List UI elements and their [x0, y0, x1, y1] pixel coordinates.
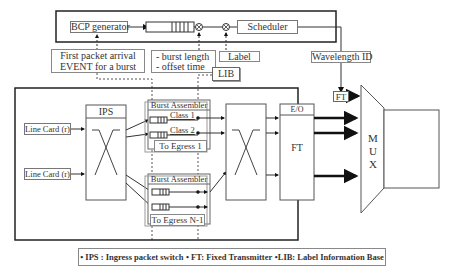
legend-lib: •LIB: Label Information Base	[275, 252, 384, 262]
class-2-label: Class 2	[170, 126, 195, 135]
mux-letter-m: M	[366, 132, 380, 144]
to-egress-1-label: To Egress 1	[155, 140, 206, 152]
class-1-label: Class 1	[170, 111, 195, 120]
scheduler-label: Scheduler	[238, 21, 297, 33]
first-packet-line2: EVENT for a burst	[52, 61, 144, 73]
lib-box: LIB	[212, 67, 240, 81]
label-text: Label	[220, 51, 259, 63]
eo-label: E/O	[280, 104, 314, 115]
lib-label: LIB	[213, 68, 239, 80]
ft-label: FT	[280, 142, 314, 154]
burst-info-box: - burst length - offset time	[151, 50, 216, 73]
diagram-wires	[0, 0, 452, 276]
line-card-2-label: Line Card (r)	[25, 168, 70, 180]
label-box: Label	[219, 51, 260, 62]
mux-letter-u: U	[366, 145, 380, 157]
first-packet-event-box: First packet arrival EVENT for a burst	[51, 49, 145, 73]
line-card-1-label: Line Card (r)	[25, 123, 70, 135]
line-card-2: Line Card (r)	[24, 168, 71, 180]
ft-small-box: FT	[333, 91, 349, 102]
legend: • IPS : Ingress packet switch • FT: Fixe…	[78, 248, 386, 266]
line-card-1: Line Card (r)	[24, 123, 71, 135]
combiner-icon-2	[223, 24, 230, 31]
wavelength-id-box: Wavelength ID	[311, 51, 371, 63]
legend-ips: • IPS : Ingress packet switch	[80, 252, 183, 262]
to-egress-n-box: To Egress N-1	[150, 214, 205, 226]
to-egress-1-box: To Egress 1	[154, 140, 207, 152]
combiner-icon-1	[196, 24, 203, 31]
ft-small-label: FT	[334, 91, 348, 103]
bcp-generator-box: BCP generator	[70, 21, 128, 33]
scheduler-box: Scheduler	[237, 20, 298, 34]
bcp-generator-label: BCP generator	[71, 21, 127, 33]
wavelength-id-label: Wavelength ID	[312, 51, 370, 63]
burst-assembler-n-title: Burst Assembler	[148, 174, 210, 184]
ips-label: IPS	[86, 106, 126, 118]
offset-time-label: - offset time	[156, 61, 205, 73]
mux-letter-x: X	[366, 158, 380, 170]
to-egress-n-label: To Egress N-1	[151, 214, 204, 226]
burst-assembler-1-title: Burst Assembler	[148, 100, 210, 110]
legend-ft: • FT: Fixed Transmitter	[186, 252, 272, 262]
